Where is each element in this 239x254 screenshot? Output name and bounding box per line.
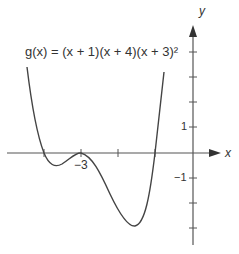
y-axis-label: y [199,4,205,18]
function-curve [27,67,164,226]
x-axis-label: x [225,146,231,160]
x-axis-arrow-icon [209,149,221,157]
y-tick-label-minus1: −1 [174,171,187,183]
chart-canvas [0,0,239,254]
y-tick-label-1: 1 [181,120,187,132]
y-axis-arrow-icon [189,25,197,37]
x-tick-label-minus3: −3 [74,158,88,172]
function-label: g(x) = (x + 1)(x + 4)(x + 3)² [25,44,178,59]
